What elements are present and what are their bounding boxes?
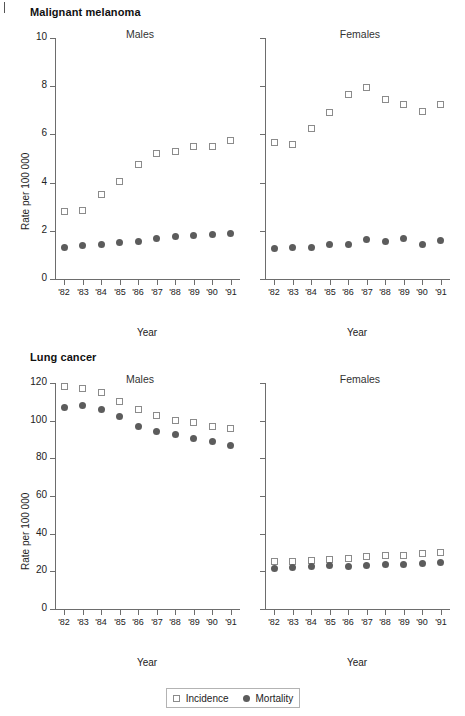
incidence-data-point <box>227 425 234 432</box>
y-axis-tick <box>50 571 55 572</box>
incidence-data-point <box>153 150 160 157</box>
x-axis-tick <box>348 610 349 615</box>
incidence-data-point <box>172 417 179 424</box>
x-axis-tick <box>385 610 386 615</box>
y-axis-tick-label: 0 <box>13 272 47 283</box>
mortality-data-point <box>289 564 296 571</box>
y-axis-tick <box>50 534 55 535</box>
y-axis-tick <box>260 183 265 184</box>
x-axis-tick <box>293 280 294 285</box>
plot-lung-females: '82'83'84'85'86'87'88'89'90'91 <box>265 383 450 633</box>
y-axis-tick <box>260 496 265 497</box>
mortality-data-point <box>135 238 142 245</box>
y-axis-tick-label: 2 <box>13 224 47 235</box>
y-axis-tick <box>260 86 265 87</box>
mortality-data-point <box>172 431 179 438</box>
y-axis-tick-label: 80 <box>13 451 47 462</box>
x-axis-tick <box>64 610 65 615</box>
x-axis-tick <box>157 610 158 615</box>
x-axis-tick <box>120 610 121 615</box>
x-axis-tick <box>330 610 331 615</box>
x-axis-label-melanoma-males: Year <box>97 327 197 338</box>
x-axis-tick <box>83 610 84 615</box>
y-axis-tick <box>50 134 55 135</box>
legend-entry-incidence: Incidence <box>173 693 229 704</box>
mortality-data-point <box>227 230 234 237</box>
panel-title-lung: Lung cancer <box>30 351 97 363</box>
x-axis-tick <box>385 280 386 285</box>
incidence-data-point <box>61 208 68 215</box>
incidence-data-point <box>209 143 216 150</box>
incidence-data-point <box>153 412 160 419</box>
y-axis-tick <box>260 383 265 384</box>
legend-label-incidence: Incidence <box>186 693 229 704</box>
mortality-data-point <box>400 561 407 568</box>
x-axis-label-melanoma-females: Year <box>307 327 407 338</box>
mortality-data-point <box>172 233 179 240</box>
y-axis-tick <box>50 38 55 39</box>
incidence-data-point <box>116 178 123 185</box>
panel-title-melanoma: Malignant melanoma <box>30 6 141 18</box>
x-axis-tick <box>175 280 176 285</box>
mortality-data-point <box>98 406 105 413</box>
x-axis-tick <box>422 610 423 615</box>
x-axis-tick <box>194 610 195 615</box>
mortality-data-point <box>382 561 389 568</box>
incidence-data-point <box>400 552 407 559</box>
incidence-data-point <box>135 406 142 413</box>
x-axis-tick <box>367 280 368 285</box>
incidence-data-point <box>308 125 315 132</box>
y-axis-tick-label: 100 <box>13 414 47 425</box>
x-axis-tick-label: '91 <box>219 287 243 297</box>
mortality-data-point <box>326 241 333 248</box>
mortality-data-point <box>153 235 160 242</box>
legend: Incidence Mortality <box>166 688 300 708</box>
incidence-data-point <box>79 385 86 392</box>
mortality-data-point <box>437 559 444 566</box>
incidence-data-point <box>116 398 123 405</box>
incidence-data-point <box>98 191 105 198</box>
y-axis-tick-label: 8 <box>13 79 47 90</box>
y-axis-tick-label: 6 <box>13 127 47 138</box>
x-axis-label-lung-males: Year <box>97 657 197 668</box>
y-axis-tick <box>50 609 55 610</box>
y-axis-tick <box>260 38 265 39</box>
y-axis-line <box>55 38 56 279</box>
x-axis-label-lung-females: Year <box>307 657 407 668</box>
mortality-data-point <box>437 237 444 244</box>
plot-lung-males: 020406080100120'82'83'84'85'86'87'88'89'… <box>55 383 240 633</box>
y-axis-tick <box>260 534 265 535</box>
incidence-data-point <box>172 148 179 155</box>
x-axis-tick <box>120 280 121 285</box>
y-axis-tick <box>260 279 265 280</box>
legend-entry-mortality: Mortality <box>243 693 294 704</box>
mortality-data-point <box>190 435 197 442</box>
y-axis-line <box>265 38 266 279</box>
y-axis-tick-label: 0 <box>13 602 47 613</box>
mortality-data-point <box>190 232 197 239</box>
mortality-data-point <box>61 404 68 411</box>
incidence-data-point <box>382 552 389 559</box>
incidence-data-point <box>382 96 389 103</box>
y-axis-tick-label: 4 <box>13 176 47 187</box>
y-axis-line <box>265 383 266 609</box>
y-axis-tick <box>50 231 55 232</box>
incidence-data-point <box>363 84 370 91</box>
mortality-data-point <box>289 244 296 251</box>
y-axis-tick <box>260 571 265 572</box>
figure-root: Malignant melanoma Males Females Rate pe… <box>0 0 465 716</box>
y-axis-tick <box>50 383 55 384</box>
x-axis-tick <box>157 280 158 285</box>
mortality-data-point <box>227 442 234 449</box>
incidence-data-point <box>190 419 197 426</box>
x-axis-tick-label: '91 <box>429 287 453 297</box>
y-axis-line <box>55 383 56 609</box>
y-axis-tick <box>50 86 55 87</box>
incidence-data-point <box>345 555 352 562</box>
incidence-data-point <box>135 161 142 168</box>
mortality-data-point <box>363 562 370 569</box>
mortality-data-point <box>308 563 315 570</box>
mortality-data-point <box>135 423 142 430</box>
x-axis-tick <box>404 280 405 285</box>
x-axis-tick <box>274 280 275 285</box>
